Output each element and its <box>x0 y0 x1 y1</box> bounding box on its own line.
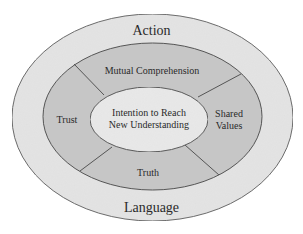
label-shared: Shared <box>209 108 249 120</box>
label-new-understanding: New Understanding <box>99 119 199 131</box>
label-values: Values <box>209 120 249 132</box>
concentric-diagram: Action Language Mutual Comprehension Sha… <box>0 0 303 234</box>
label-shared-values: Shared Values <box>209 108 249 132</box>
label-truth: Truth <box>128 168 168 178</box>
label-intention: Intention to Reach <box>99 107 199 119</box>
label-inner-core: Intention to Reach New Understanding <box>99 107 199 131</box>
label-mutual-comprehension: Mutual Comprehension <box>102 66 202 76</box>
label-action: Action <box>0 24 303 38</box>
label-language: Language <box>0 201 303 215</box>
label-trust: Trust <box>47 115 87 125</box>
